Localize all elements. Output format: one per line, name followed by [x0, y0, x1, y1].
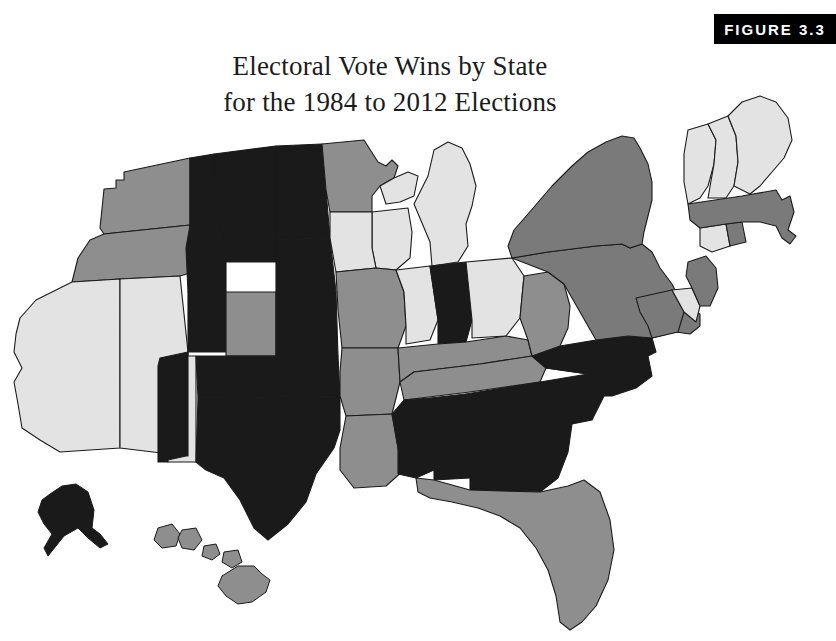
- state-washington[interactable]: [100, 158, 190, 234]
- state-rhode-island[interactable]: [726, 222, 746, 246]
- state-kansas[interactable]: [276, 292, 338, 356]
- state-ohio[interactable]: [466, 258, 524, 338]
- state-texas[interactable]: [196, 396, 340, 540]
- state-wisconsin[interactable]: [372, 208, 412, 270]
- state-oklahoma[interactable]: [196, 356, 340, 398]
- figure-number-band: FIGURE 3.3: [714, 14, 836, 44]
- state-mississippi[interactable]: [392, 398, 434, 478]
- state-arkansas[interactable]: [340, 348, 400, 416]
- state-michigan[interactable]: [414, 142, 476, 266]
- figure-number-label: FIGURE 3.3: [724, 21, 826, 38]
- state-group-insets: [38, 484, 270, 604]
- state-california[interactable]: [14, 279, 120, 452]
- state-nebraska[interactable]: [276, 238, 336, 292]
- state-indiana[interactable]: [430, 262, 472, 344]
- state-florida[interactable]: [416, 478, 614, 630]
- state-north-dakota[interactable]: [276, 144, 326, 196]
- state-utah[interactable]: [188, 292, 226, 352]
- state-missouri[interactable]: [336, 268, 406, 348]
- state-montana[interactable]: [214, 146, 276, 206]
- state-maine[interactable]: [728, 96, 792, 194]
- state-iowa[interactable]: [330, 212, 376, 272]
- state-hawaii-molokai[interactable]: [222, 550, 242, 568]
- figure-title-line1: Electoral Vote Wins by State: [150, 48, 630, 84]
- state-hawaii-kauai[interactable]: [154, 524, 180, 548]
- state-hawaii-oahu[interactable]: [178, 528, 202, 550]
- state-alabama[interactable]: [430, 394, 470, 480]
- state-new-york[interactable]: [508, 136, 652, 258]
- state-hawaii-big-island[interactable]: [218, 566, 270, 604]
- state-south-dakota[interactable]: [276, 190, 330, 240]
- state-wyoming[interactable]: [222, 206, 276, 262]
- state-oregon[interactable]: [72, 225, 190, 282]
- state-colorado[interactable]: [226, 292, 276, 356]
- state-group-midwest: [322, 140, 524, 348]
- state-connecticut[interactable]: [700, 224, 730, 252]
- state-arizona[interactable]: [158, 352, 188, 462]
- state-alaska[interactable]: [38, 484, 108, 556]
- figure-title-line2: for the 1984 to 2012 Elections: [150, 84, 630, 120]
- figure-title: Electoral Vote Wins by State for the 198…: [150, 48, 630, 121]
- state-hawaii-maui[interactable]: [202, 544, 220, 560]
- figure-page: Electoral Vote Wins by State for the 198…: [0, 0, 836, 641]
